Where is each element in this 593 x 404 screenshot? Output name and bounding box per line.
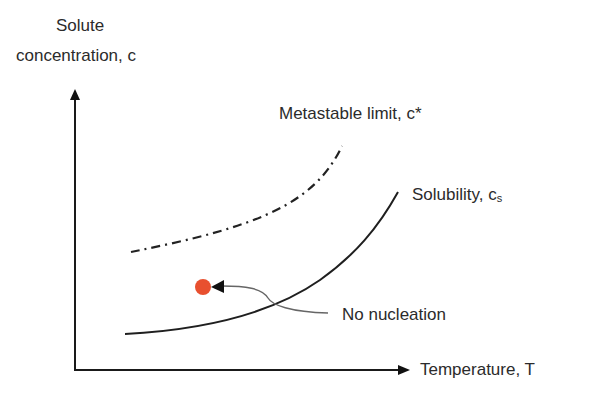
solubility-label: Solubility, cs xyxy=(412,185,502,205)
arrowhead-icon xyxy=(211,280,224,293)
state-point xyxy=(195,279,211,295)
y-axis-arrow-icon xyxy=(70,89,80,100)
y-axis-label-line1: Solute xyxy=(56,16,104,36)
annotation-arrow xyxy=(222,286,328,313)
y-axis-label-line2: concentration, c xyxy=(16,46,136,66)
x-axis-label: Temperature, T xyxy=(420,360,535,380)
metastable-label: Metastable limit, c* xyxy=(279,104,422,124)
annotation-label: No nucleation xyxy=(342,305,446,325)
x-axis-arrow-icon xyxy=(398,365,410,375)
solubility-subscript: s xyxy=(497,192,503,204)
solubility-label-text: Solubility, c xyxy=(412,185,497,204)
metastable-curve xyxy=(131,146,342,252)
